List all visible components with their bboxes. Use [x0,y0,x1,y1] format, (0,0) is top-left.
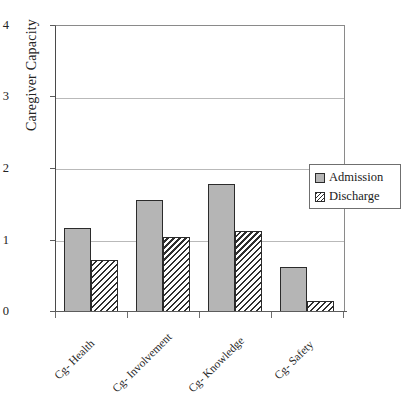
x-category-label-cg-involvement: Cg- Involvement [110,331,174,395]
y-tick-label-1: 1 [0,234,9,246]
legend-label-discharge: Discharge [329,190,379,203]
x-axis-baseline [55,311,347,312]
bar-discharge-cg-knowledge [235,231,262,312]
legend-label-admission: Admission [329,171,383,184]
gridline-2 [56,169,344,170]
bar-admission-cg-involvement [136,200,163,312]
bar-discharge-cg-health [91,260,118,312]
plot-area: Admission Discharge [55,25,345,312]
bar-admission-cg-health [64,228,91,312]
x-tick-mark-0 [55,312,56,318]
x-tick-mark-3 [271,312,272,318]
x-category-label-cg-knowledge: Cg- Knowledge [186,334,246,394]
y-tick-label-2: 2 [0,162,9,174]
y-tick-label-0: 0 [0,305,9,317]
legend-swatch-discharge-icon [315,192,325,202]
x-tick-mark-2 [199,312,200,318]
x-tick-mark-1 [127,312,128,318]
x-category-label-cg-health: Cg- Health [52,337,96,381]
legend-item-discharge: Discharge [315,187,396,206]
chart-legend: Admission Discharge [309,164,401,209]
gridline-1 [56,241,344,242]
bar-admission-cg-safety [280,267,307,312]
y-axis-title: Caregiver Capacity [23,0,41,165]
x-tick-mark-4 [343,312,344,318]
y-tick-label-4: 4 [0,19,9,31]
legend-item-admission: Admission [315,168,396,187]
legend-swatch-admission-icon [315,173,325,183]
bar-discharge-cg-involvement [163,237,190,312]
plot-inner [56,26,344,312]
x-category-label-cg-safety: Cg- Safety [272,338,315,381]
bar-admission-cg-knowledge [208,184,235,312]
gridline-3 [56,98,344,99]
y-tick-label-3: 3 [0,90,9,102]
